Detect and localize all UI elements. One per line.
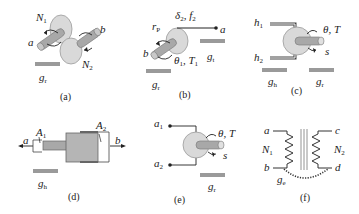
panel-d-hydraulic-cylinder: A1 A2 a b gh (d) [0,107,130,214]
panel-f-transformer: a b c d N1 N2 ge (f) [240,107,359,214]
label-b: b [264,162,270,173]
label-ground-gh: gh [268,76,277,89]
ground-gh-bar [262,68,287,72]
label-theta-T: θ1, T1 [174,55,198,68]
ground-gh-bar [33,169,58,173]
label-h2: h2 [254,52,263,65]
label-s: s [325,46,329,57]
label-s: s [223,150,227,161]
label-ground-gr: gr [208,181,216,194]
label-ground-gr: gr [39,72,47,85]
panel-e-electric-motor: a1 a2 θ, T s gr (e) [130,107,240,214]
label-a: a [28,37,34,48]
label-n1: N1 [36,12,47,25]
label-delta-f: δ2, f2 [175,10,196,23]
label-ground-gr: gr [152,79,160,92]
panel-c-hydraulic-motor: h1 h2 θ, T s gh gr (c) [240,0,359,107]
label-n2: N2 [82,59,93,72]
piston-body [66,133,98,162]
label-N1: N1 [262,144,273,157]
secondary-winding [312,131,332,168]
label-A1: A1 [36,127,46,140]
piston-rod [43,141,67,150]
ground-gr-bar [309,68,334,72]
label-theta-T: θ, T [218,128,235,139]
primary-winding [273,131,293,168]
ground-gr-bar [200,173,225,177]
caption-e: (e) [174,195,185,205]
label-a1: a1 [154,118,163,131]
label-ground-gr: gr [316,76,324,89]
label-c: c [335,125,340,136]
label-A2: A2 [96,120,106,133]
label-ground-ge: ge [277,174,286,187]
label-a: a [23,135,29,146]
caption-f: (f) [300,193,310,203]
label-rp: rP [152,21,160,34]
label-a: a [264,125,270,136]
label-a: a [220,24,226,35]
ground-gt-bar [200,39,225,43]
label-d: d [335,162,341,173]
hydraulic-cylinder-drawing [0,107,130,214]
label-h1: h1 [254,17,263,30]
ground-ge-arc [284,169,328,178]
label-ground-gh: gh [38,178,47,191]
label-b: b [143,48,149,59]
label-b: b [115,135,121,146]
ground-gr-bar [146,69,171,73]
caption-c: (c) [291,86,302,96]
label-N2: N2 [334,144,345,157]
label-ground-gt: gt [207,51,214,64]
caption-a: (a) [60,92,71,102]
caption-b: (b) [179,90,191,100]
panel-a-gear-pair: N1 N2 a b gr (a) [0,0,120,107]
panel-b-rack-pinion: rP δ2, f2 a b θ1, T1 gt gr (b) [110,0,240,107]
ground-gr-bar [35,62,60,66]
label-b: b [100,24,106,35]
label-theta-T: θ, T [323,24,340,35]
caption-d: (d) [68,192,80,202]
label-a2: a2 [154,158,163,171]
